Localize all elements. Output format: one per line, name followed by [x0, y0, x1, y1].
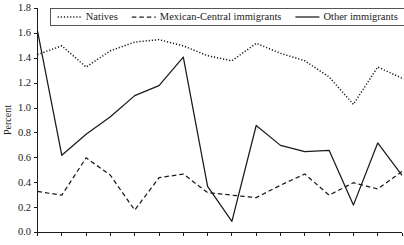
y-tick-label: 0.8	[18, 127, 31, 138]
series-line-dotted	[38, 40, 403, 105]
chart-legend: NativesMexican-Central immigrantsOther i…	[51, 9, 404, 26]
line-chart: 0.00.20.40.60.81.01.21.41.61.8 Percent N…	[0, 0, 404, 245]
y-tick-group: 0.00.20.40.60.81.01.21.41.61.8	[18, 2, 38, 237]
y-axis-group: 0.00.20.40.60.81.01.21.41.61.8	[18, 2, 38, 237]
legend-label: Mexican-Central immigrants	[160, 11, 282, 22]
chart-container: 0.00.20.40.60.81.01.21.41.61.8 Percent N…	[0, 0, 404, 245]
series-line-solid	[38, 31, 403, 221]
series-group	[38, 31, 403, 221]
y-tick-label: 0.2	[18, 202, 31, 213]
y-tick-label: 1.4	[18, 52, 32, 63]
y-tick-label: 0.4	[18, 177, 32, 188]
y-tick-label: 1.8	[18, 2, 31, 13]
legend-label: Other immigrants	[323, 11, 397, 22]
y-tick-label: 1.6	[18, 27, 31, 38]
x-axis-group	[38, 233, 403, 237]
y-tick-label: 0.0	[18, 226, 31, 237]
legend-label: Natives	[86, 11, 118, 22]
y-axis-title: Percent	[2, 105, 13, 135]
series-line-dashed	[38, 158, 403, 210]
y-tick-label: 1.2	[18, 77, 31, 88]
y-tick-label: 1.0	[18, 102, 31, 113]
x-tick-group	[38, 233, 403, 237]
y-tick-label: 0.6	[18, 152, 31, 163]
